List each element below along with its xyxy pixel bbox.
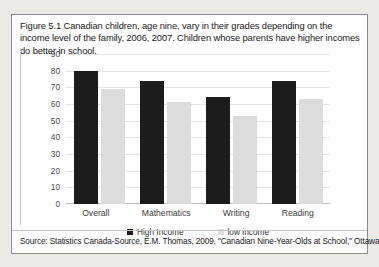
chart-panel: 9080706050403020100 OverallMathematicsWr… <box>20 48 361 225</box>
y-axis-tick-90: 90 <box>38 49 60 59</box>
bar-group <box>140 54 191 204</box>
bar <box>140 81 164 204</box>
y-axis-tick-70: 70 <box>38 82 60 92</box>
bar <box>299 99 323 204</box>
y-axis-tick-50: 50 <box>38 116 60 126</box>
y-axis-tick-60: 60 <box>38 99 60 109</box>
bar <box>206 97 230 204</box>
y-axis-tick-0: 0 <box>38 199 60 209</box>
bar <box>272 81 296 204</box>
plot-area <box>66 54 330 204</box>
bar-group <box>272 54 323 204</box>
x-axis-label: Mathematics <box>142 208 191 218</box>
y-axis-tick-10: 10 <box>38 182 60 192</box>
bar <box>74 71 98 204</box>
y-axis-tick-30: 30 <box>38 149 60 159</box>
bar-series-container <box>66 54 330 204</box>
x-axis-label: Overall <box>82 208 109 218</box>
bar <box>167 102 191 204</box>
y-axis-tick-labels: 9080706050403020100 <box>38 54 60 204</box>
figure-source-note: Source: Statistics Canada-Source, E.M. T… <box>20 236 361 247</box>
bar-group <box>206 54 257 204</box>
figure-container: Figure 5.1 Canadian children, age nine, … <box>11 14 368 254</box>
y-axis-tick-80: 80 <box>38 66 60 76</box>
bar-group <box>74 54 125 204</box>
bar <box>233 116 257 204</box>
source-divider <box>12 230 367 231</box>
y-axis-tick-40: 40 <box>38 132 60 142</box>
x-axis-label: Reading <box>282 208 314 218</box>
y-axis-tick-20: 20 <box>38 166 60 176</box>
bar <box>101 89 125 204</box>
x-axis-label: Writing <box>223 208 250 218</box>
x-axis-category-labels: OverallMathematicsWritingReading <box>66 208 330 218</box>
